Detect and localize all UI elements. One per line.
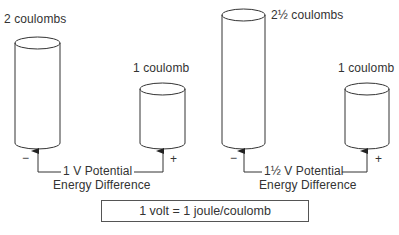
energy-difference-label-right: Energy Difference (259, 178, 357, 192)
cylinder-1-coulomb-left (140, 83, 185, 149)
positive-sign-left: + (170, 152, 177, 166)
potential-label-right: 1½ V Potential (264, 164, 343, 178)
potential-label-left: 1 V Potential (63, 164, 132, 178)
cylinder-2-coulombs (15, 37, 60, 149)
negative-sign-right: − (230, 151, 237, 165)
label-2-coulombs: 2 coulombs (4, 12, 66, 26)
label-1-coulomb-left: 1 coulomb (133, 61, 189, 75)
cylinder-2-5-coulombs (222, 9, 265, 149)
energy-difference-label-left: Energy Difference (53, 178, 151, 192)
label-2-5-coulombs: 2½ coulombs (271, 8, 343, 22)
formula-text: 1 volt = 1 joule/coulomb (139, 204, 271, 218)
negative-sign-left: − (22, 151, 29, 165)
formula-box: 1 volt = 1 joule/coulomb (101, 200, 309, 222)
cylinder-1-coulomb-right (345, 83, 389, 149)
positive-sign-right: + (375, 152, 382, 166)
label-1-coulomb-right: 1 coulomb (338, 61, 394, 75)
